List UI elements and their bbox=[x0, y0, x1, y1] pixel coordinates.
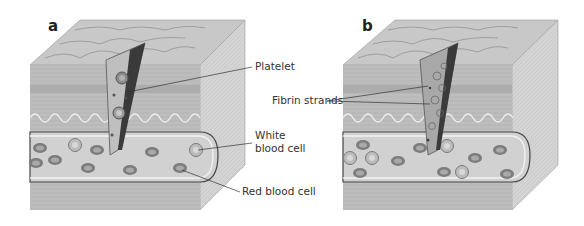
white-blood-cell-label-line2: blood cell bbox=[255, 142, 306, 155]
panel-label-b: b bbox=[362, 17, 373, 35]
platelet-label: Platelet bbox=[255, 60, 295, 73]
skin-block-a bbox=[29, 20, 252, 210]
white-blood-cell-label-line1: White bbox=[255, 129, 286, 142]
panel-label-a: a bbox=[48, 17, 58, 35]
fibrin-strands-label: Fibrin strands bbox=[272, 94, 343, 107]
skin-block-b bbox=[327, 20, 558, 210]
red-blood-cell-label: Red blood cell bbox=[242, 185, 316, 198]
